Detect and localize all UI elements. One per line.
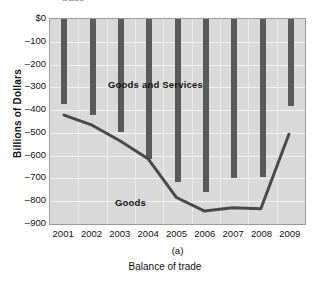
y-axis-tick-labels: $0–100–200–300–400–500–600–700–800–900 bbox=[0, 0, 46, 281]
y-axis-tick: –500 bbox=[2, 127, 46, 136]
y-axis-title: Billions of Dollars bbox=[12, 59, 23, 169]
y-axis-tick: –900 bbox=[2, 218, 46, 227]
figure-caption: Balance of trade bbox=[20, 261, 310, 272]
goods-line-series bbox=[50, 19, 305, 224]
goods-polyline bbox=[64, 115, 289, 211]
plot-area: Goods and Services Goods bbox=[49, 18, 306, 225]
series-label-goods: Goods bbox=[115, 197, 146, 208]
y-axis-tick: –300 bbox=[2, 81, 46, 90]
x-axis-tick: 2009 bbox=[273, 228, 307, 239]
y-axis-tick: –600 bbox=[2, 150, 46, 159]
y-axis-tick: –400 bbox=[2, 104, 46, 113]
series-label-goods-and-services: Goods and Services bbox=[108, 79, 203, 90]
y-axis-tick: $0 bbox=[2, 13, 46, 22]
y-axis-tick: –800 bbox=[2, 195, 46, 204]
y-axis-tick: –100 bbox=[2, 36, 46, 45]
figure-sub-caption: (a) bbox=[49, 245, 306, 256]
balance-of-trade-figure: trade $0–100–200–300–400–500–600–700–800… bbox=[0, 0, 315, 281]
x-axis-tick-labels: 200120022003200420052006200720082009 bbox=[49, 228, 306, 242]
top-cropped-text: trade bbox=[62, 0, 182, 6]
y-axis-tick: –200 bbox=[2, 59, 46, 68]
y-axis-tick: –700 bbox=[2, 172, 46, 181]
